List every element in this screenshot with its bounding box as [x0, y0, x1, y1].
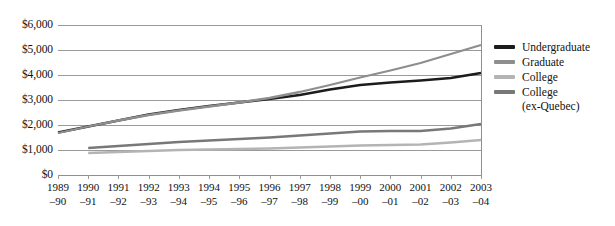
x-tick-year-start: 2003	[460, 180, 502, 194]
legend-color-swatch	[494, 60, 515, 64]
legend-color-swatch	[494, 90, 515, 94]
x-tick-year-end: –04	[460, 194, 502, 208]
legend-item-label: Undergraduate	[522, 40, 590, 54]
x-axis-labels: 1989–901990–911991–921992–931993–941994–…	[58, 180, 481, 222]
series-line	[58, 45, 481, 133]
legend-item: College	[494, 85, 615, 99]
legend-color-swatch	[494, 45, 515, 49]
legend-color-swatch	[494, 75, 515, 79]
legend-item-sublabel: (ex-Quebec)	[522, 100, 615, 113]
legend-item-label: Graduate	[522, 55, 564, 69]
legend-item: College	[494, 70, 615, 84]
series-line	[58, 73, 481, 133]
legend-item-label: College	[522, 85, 558, 99]
series-line	[88, 140, 481, 153]
legend-item: Undergraduate	[494, 40, 615, 54]
line-chart: $0$1,000$2,000$3,000$4,000$5,000$6,000 1…	[0, 0, 615, 226]
legend-item: Graduate	[494, 55, 615, 69]
legend-item-label: College	[522, 70, 558, 84]
chart-legend: UndergraduateGraduateCollegeCollege(ex-Q…	[494, 40, 615, 113]
x-axis-tick-label: 2003–04	[460, 180, 502, 208]
